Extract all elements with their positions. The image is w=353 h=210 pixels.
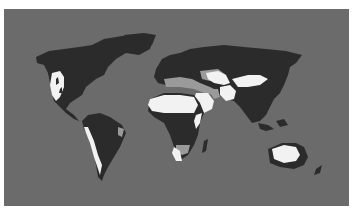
world-map-svg — [4, 9, 349, 206]
world-map — [4, 9, 349, 206]
